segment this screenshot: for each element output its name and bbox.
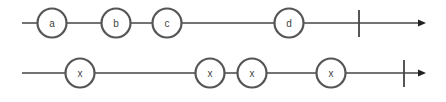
marble: b [102,9,131,38]
arrow-icon [418,20,426,27]
marble: x [66,59,95,88]
stream-source: a b c d [22,9,426,38]
marble: c [153,9,182,38]
marble-label: x [250,68,255,79]
marble: x [196,59,225,88]
marble-label: x [78,68,83,79]
marble: a [38,9,67,38]
arrow-icon [418,70,426,77]
marble-label: x [329,68,334,79]
marble: d [275,9,304,38]
marble-label: x [208,68,213,79]
marble: x [238,59,267,88]
marble: x [317,59,346,88]
stream-result: x x x x [22,59,426,88]
marble-label: a [49,18,55,29]
diagram-canvas: a b c d x [0,0,446,102]
marble-label: c [165,18,170,29]
marble-label: b [113,18,119,29]
marble-label: d [286,18,292,29]
marble-diagram: a b c d x [0,0,446,102]
